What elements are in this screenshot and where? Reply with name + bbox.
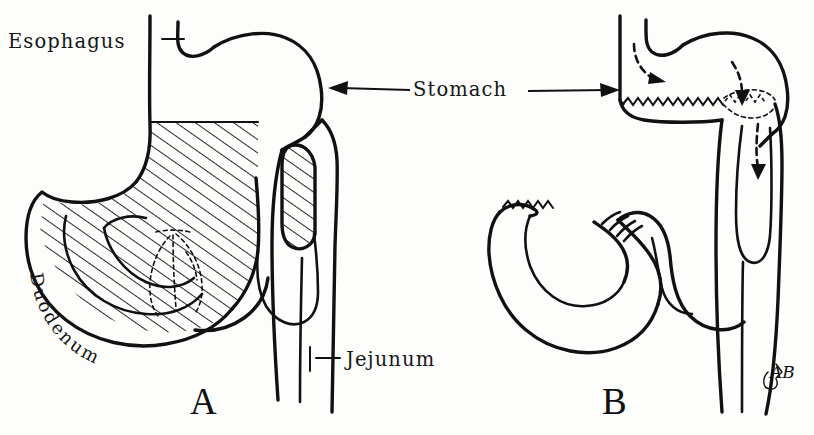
esophagus-outline-b (620, 16, 683, 100)
label-jejunum-group: Jejunum (310, 347, 435, 371)
stomach-arrow-right-shaft (528, 90, 608, 91)
gastric-stump-suture-b (621, 90, 775, 122)
panel-b-diagram: AB (489, 16, 795, 414)
label-esophagus: Esophagus (8, 30, 126, 53)
label-jejunum: Jejunum (344, 348, 435, 371)
panel-a-diagram (20, 16, 337, 412)
stomach-arrow-right-head (600, 83, 620, 97)
gastric-remnant-outline-b (620, 33, 788, 146)
label-stomach: Stomach (413, 78, 507, 101)
stomach-arrow-left-shaft (340, 88, 410, 90)
artist-monogram: AB (764, 362, 795, 389)
flow-arrow-efferent-limb-b (751, 124, 766, 180)
label-esophagus-group: Esophagus (8, 28, 184, 53)
illustration-canvas: AB Esophagus Stomach Duodenum Jejunum A … (0, 0, 814, 435)
stomach-arrow-left-head (328, 81, 348, 95)
panel-letter-a: A (190, 381, 217, 422)
figure-root: AB Esophagus Stomach Duodenum Jejunum A … (0, 0, 814, 435)
panel-letter-b: B (602, 381, 627, 422)
label-stomach-group: Stomach (328, 78, 620, 101)
jejunal-loop-b (594, 212, 744, 330)
